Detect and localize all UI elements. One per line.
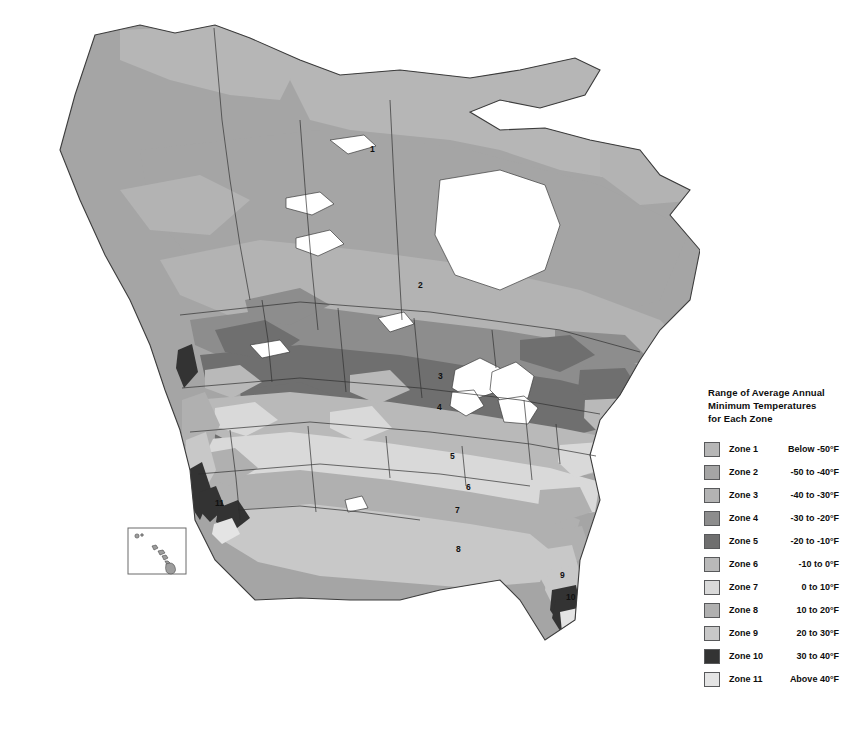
map-zone-label: 5 <box>450 452 455 461</box>
legend-zone-range: 0 to 10°F <box>783 582 845 592</box>
legend-zone-name: Zone 4 <box>729 513 783 523</box>
legend-swatch <box>704 557 720 572</box>
map-zone-label: 7 <box>455 506 460 515</box>
legend-swatch <box>704 511 720 526</box>
hawaii-inset <box>128 528 186 574</box>
legend-row: Zone 810 to 20°F <box>700 599 845 622</box>
map-zone-label: 2 <box>418 281 423 290</box>
legend-swatch <box>704 649 720 664</box>
map-zone-label: 8 <box>456 545 461 554</box>
legend-swatch <box>704 603 720 618</box>
map-svg <box>0 0 700 732</box>
map-zone-label: 6 <box>466 483 471 492</box>
legend-zone-name: Zone 5 <box>729 536 783 546</box>
legend-zone-name: Zone 3 <box>729 490 783 500</box>
legend-zone-range: -30 to -20°F <box>783 513 845 523</box>
legend-zone-name: Zone 10 <box>729 651 783 661</box>
legend-zone-range: 10 to 20°F <box>783 605 845 615</box>
legend-zone-name: Zone 8 <box>729 605 783 615</box>
legend-row: Zone 4-30 to -20°F <box>700 507 845 530</box>
legend-zone-range: -40 to -30°F <box>783 490 845 500</box>
map-zone-label: 1 <box>370 145 375 154</box>
map-zone-label: 4 <box>437 403 442 412</box>
legend-title-line-2: Minimum Temperatures <box>708 399 845 412</box>
legend-zone-name: Zone 11 <box>729 674 783 684</box>
legend-zone-range: -20 to -10°F <box>783 536 845 546</box>
legend-row: Zone 1030 to 40°F <box>700 645 845 668</box>
legend-row: Zone 5-20 to -10°F <box>700 530 845 553</box>
legend-swatch <box>704 534 720 549</box>
legend-zone-range: Below -50°F <box>783 444 845 454</box>
legend: Range of Average Annual Minimum Temperat… <box>700 386 845 691</box>
legend-swatch <box>704 465 720 480</box>
map-zone-label: 3 <box>438 372 443 381</box>
legend-rows: Zone 1Below -50°FZone 2-50 to -40°FZone … <box>700 438 845 691</box>
legend-title-line-1: Range of Average Annual <box>708 386 845 399</box>
legend-row: Zone 920 to 30°F <box>700 622 845 645</box>
legend-swatch <box>704 672 720 687</box>
legend-row: Zone 1Below -50°F <box>700 438 845 461</box>
legend-swatch <box>704 442 720 457</box>
map-zone-label: 10 <box>566 593 575 602</box>
legend-zone-name: Zone 7 <box>729 582 783 592</box>
legend-swatch <box>704 580 720 595</box>
legend-row: Zone 11Above 40°F <box>700 668 845 691</box>
legend-zone-range: -50 to -40°F <box>783 467 845 477</box>
legend-swatch <box>704 626 720 641</box>
map-zone-label: 11 <box>215 499 224 508</box>
legend-row: Zone 6-10 to 0°F <box>700 553 845 576</box>
legend-zone-range: Above 40°F <box>783 674 845 684</box>
legend-zone-name: Zone 1 <box>729 444 783 454</box>
legend-zone-range: 20 to 30°F <box>783 628 845 638</box>
legend-title: Range of Average Annual Minimum Temperat… <box>708 386 845 426</box>
legend-zone-range: -10 to 0°F <box>783 559 845 569</box>
legend-title-line-3: for Each Zone <box>708 412 845 425</box>
legend-swatch <box>704 488 720 503</box>
legend-zone-name: Zone 9 <box>729 628 783 638</box>
legend-zone-range: 30 to 40°F <box>783 651 845 661</box>
hardiness-zone-map <box>0 0 700 732</box>
legend-row: Zone 3-40 to -30°F <box>700 484 845 507</box>
map-zone-label: 9 <box>560 571 565 580</box>
legend-row: Zone 70 to 10°F <box>700 576 845 599</box>
legend-row: Zone 2-50 to -40°F <box>700 461 845 484</box>
legend-zone-name: Zone 2 <box>729 467 783 477</box>
legend-zone-name: Zone 6 <box>729 559 783 569</box>
